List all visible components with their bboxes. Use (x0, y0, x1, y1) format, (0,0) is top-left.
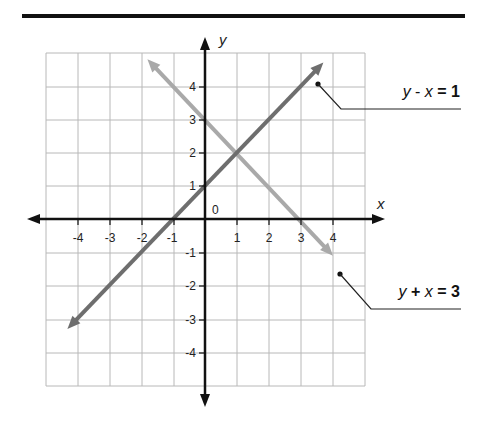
svg-text:4: 4 (189, 80, 196, 94)
svg-text:2: 2 (189, 146, 196, 160)
y-axis-up-arrow-icon (200, 37, 210, 50)
x-axis-right-arrow-icon (372, 214, 385, 224)
x-axis-left-arrow-icon (27, 214, 40, 224)
svg-text:-1: -1 (167, 231, 178, 245)
svg-text:-4: -4 (73, 231, 84, 245)
y-axis-label: y (218, 31, 228, 48)
svg-text:3: 3 (189, 113, 196, 127)
svg-text:4: 4 (330, 231, 337, 245)
series-label-1: y - x = 1 (402, 83, 460, 100)
origin-label: 0 (212, 203, 219, 217)
svg-text:3: 3 (298, 231, 305, 245)
svg-text:1: 1 (234, 231, 241, 245)
svg-text:-3: -3 (105, 231, 116, 245)
series-label-2: y + x = 3 (398, 283, 460, 300)
y-axis-down-arrow-icon (200, 394, 210, 407)
x-axis-label: x (376, 195, 385, 212)
y-axis (200, 37, 210, 407)
svg-text:-4: -4 (185, 346, 196, 360)
series-layer (67, 59, 333, 329)
svg-text:-1: -1 (185, 246, 196, 260)
svg-text:-3: -3 (185, 313, 196, 327)
svg-text:-2: -2 (185, 279, 196, 293)
svg-text:-2: -2 (137, 231, 148, 245)
series-line-2 (147, 59, 333, 255)
svg-text:2: 2 (266, 231, 273, 245)
svg-text:1: 1 (189, 179, 196, 193)
coordinate-plane-chart: -4 -3 -2 -1 1 2 3 4 4 3 2 1 -1 -2 -3 -4 … (0, 0, 486, 426)
